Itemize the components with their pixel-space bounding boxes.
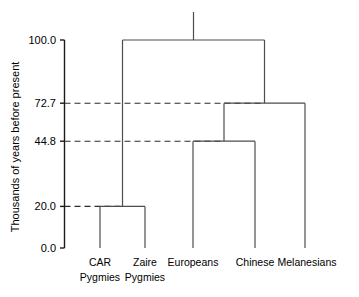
y-tick-label-72-7: 72.7 bbox=[35, 97, 56, 109]
dendrogram-figure: 100.0 72.7 44.8 20.0 0.0 Thousands of ye… bbox=[0, 0, 359, 297]
leaf-label-zaire-pygmies-line1: Zaire bbox=[133, 256, 157, 268]
dendrogram-canvas: 100.0 72.7 44.8 20.0 0.0 Thousands of ye… bbox=[0, 0, 359, 297]
y-axis-title: Thousands of years before present bbox=[9, 62, 21, 233]
y-tick-label-0: 0.0 bbox=[41, 242, 56, 254]
y-tick-label-44-8: 44.8 bbox=[35, 135, 56, 147]
leaf-label-chinese: Chinese bbox=[236, 256, 275, 268]
y-tick-label-20: 20.0 bbox=[35, 200, 56, 212]
leaf-label-zaire-pygmies-line2: Pygmies bbox=[125, 271, 165, 283]
leaf-label-car-pygmies-line1: CAR bbox=[89, 256, 112, 268]
leaf-label-europeans: Europeans bbox=[168, 256, 219, 268]
leaf-label-car-pygmies-line2: Pygmies bbox=[80, 271, 120, 283]
y-tick-label-100: 100.0 bbox=[28, 34, 56, 46]
leaf-label-melanesians: Melanesians bbox=[278, 256, 337, 268]
